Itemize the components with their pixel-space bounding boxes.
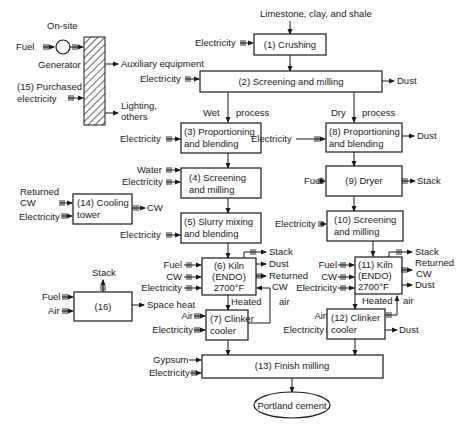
fuel-label-6: Fuel xyxy=(164,259,182,270)
electricity-label-12: Electricity xyxy=(283,324,324,335)
dust-label-12: Dust xyxy=(399,324,419,335)
returned-label: Returned xyxy=(20,186,59,197)
generator-icon xyxy=(56,40,70,54)
box-11-label-3: 2700°F xyxy=(358,281,389,292)
dust-label-6: Dust xyxy=(269,258,289,269)
electricity-label-7: Electricity xyxy=(152,324,193,335)
air-label-12: Air xyxy=(314,310,326,321)
dry-process-label: process xyxy=(362,107,396,118)
stack-label-16: Stack xyxy=(92,267,116,278)
fuel-label-11: Fuel xyxy=(319,259,337,270)
electricity-label-13: Electricity xyxy=(149,367,190,378)
electricity-label-1: Electricity xyxy=(195,37,236,48)
air-label-7: Air xyxy=(181,310,193,321)
dry-label: Dry xyxy=(331,107,346,118)
box-6-label-3: 2700°F xyxy=(214,282,245,293)
fuel-label-16: Fuel xyxy=(42,291,60,302)
heated-label-6: Heated xyxy=(231,296,262,307)
raw-material-label: Limestone, clay, and shale xyxy=(260,8,372,19)
electricity-label-8: Electricity xyxy=(251,133,292,144)
fuel-label: Fuel xyxy=(16,41,34,52)
box-12-label-1: (12) Clinker xyxy=(331,312,380,323)
electrical-bus xyxy=(84,37,105,125)
electricity-label-10: Electricity xyxy=(275,218,316,229)
gypsum-label: Gypsum xyxy=(153,354,188,365)
air-label-6: air xyxy=(279,296,290,307)
electricity-label-3: Electricity xyxy=(120,133,161,144)
box-14-label-2: tower xyxy=(77,209,100,220)
aux-equipment-label: Auxiliary equipment xyxy=(121,58,204,69)
box-9-label: (9) Dryer xyxy=(345,175,382,186)
cw-out-label: CW xyxy=(147,202,163,213)
box-crushing-label: (1) Crushing xyxy=(264,39,316,50)
heated-label-11: Heated xyxy=(362,295,393,306)
box-10-label-1: (10) Screening xyxy=(334,214,396,225)
cw-label-6: CW xyxy=(166,271,182,282)
box-7-label-1: (7) Clinker xyxy=(210,313,254,324)
box-8-label-1: (8) Proportioning xyxy=(329,126,400,137)
air-label-11: air xyxy=(403,295,414,306)
onsite-label: On-site xyxy=(47,20,78,31)
returned-cw-label: CW xyxy=(20,197,36,208)
stack-label-9: Stack xyxy=(417,175,441,186)
electricity-label-14: Electricity xyxy=(19,211,60,222)
box-3-label-2: and blending xyxy=(184,138,238,149)
fuel-label-9: Fuel xyxy=(304,175,322,186)
purchased-label-2: electricity xyxy=(17,93,57,104)
box-2-label: (2) Screening and milling xyxy=(238,76,343,87)
box-4-label-2: and milling xyxy=(189,184,234,195)
cw-label-11: CW xyxy=(321,271,337,282)
returned-cw-label-11: CW xyxy=(416,268,432,279)
box-10-label-2: and milling xyxy=(334,226,379,237)
dust-label-2: Dust xyxy=(397,75,417,86)
generator-label: Generator xyxy=(38,59,81,70)
electricity-label-5: Electricity xyxy=(120,229,161,240)
box-5-label-1: (5) Slurry mixing xyxy=(184,216,253,227)
box-16-label: (16) xyxy=(95,301,112,312)
electricity-label-6: Electricity xyxy=(141,282,182,293)
wet-label: Wet xyxy=(203,107,220,118)
electricity-label-2: Electricity xyxy=(140,73,181,84)
electricity-label-11: Electricity xyxy=(296,282,337,293)
box-6-label-1: (6) Kiln xyxy=(214,260,244,271)
box-13-label: (13) Finish milling xyxy=(255,360,329,371)
dust-label-8: Dust xyxy=(417,130,437,141)
box-11-label-1: (11) Kiln xyxy=(358,259,393,270)
box-4-label-1: (4) Screening xyxy=(189,172,246,183)
product-label: Portland cement xyxy=(257,400,327,411)
lighting-label-2: others xyxy=(121,111,148,122)
wet-process-label: process xyxy=(236,107,270,118)
returned-label-6: Returned xyxy=(269,270,308,281)
water-label: Water xyxy=(137,164,162,175)
box-3-label-1: (3) Proportioning xyxy=(184,126,255,137)
space-heat-label: Space heat xyxy=(147,299,195,310)
returned-label-11: Returned xyxy=(415,257,454,268)
dust-label-11: Dust xyxy=(415,279,435,290)
box-12-label-2: cooler xyxy=(331,324,357,335)
box-6-label-2: (ENDO) xyxy=(212,271,246,282)
box-11-label-2: (ENDO) xyxy=(358,270,392,281)
stack-label-6: Stack xyxy=(269,246,293,257)
lighting-label-1: Lighting, xyxy=(121,100,157,111)
box-7-label-2: cooler xyxy=(210,325,236,336)
box-8-label-2: and blending xyxy=(329,138,383,149)
electricity-label-4: Electricity xyxy=(122,176,163,187)
box-14-label-1: (14) Cooling xyxy=(77,197,129,208)
purchased-label-1: (15) Purchased xyxy=(17,81,82,92)
returned-cw-label-6: CW xyxy=(272,281,288,292)
air-label-16: Air xyxy=(48,305,60,316)
stack-label-11: Stack xyxy=(415,246,439,257)
box-5-label-2: and blending xyxy=(184,228,238,239)
process-flow-diagram: On-site Fuel Generator (15) Purchased el… xyxy=(0,0,468,433)
